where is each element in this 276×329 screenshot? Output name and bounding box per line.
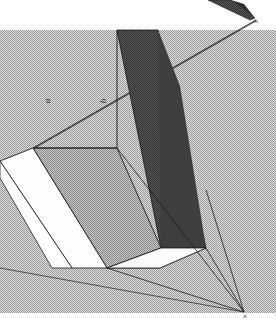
edge-label-b: b (98, 98, 108, 103)
vanishing-point-lower-marker: × (242, 311, 247, 321)
vanishing-point-upper-marker: × (253, 16, 258, 26)
edge-label-a: a (42, 98, 52, 103)
perspective-figure: a b × × (0, 0, 276, 329)
perspective-drawing-canvas: a b × × (0, 0, 276, 329)
